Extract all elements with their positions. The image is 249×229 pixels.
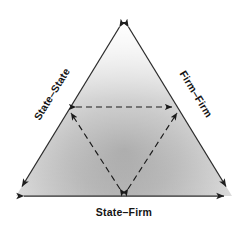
diagram-canvas: State–State Firm–Firm State–Firm — [0, 0, 249, 229]
right-edge-label: Firm–Firm — [178, 68, 216, 119]
bottom-edge-label: State–Firm — [96, 206, 152, 218]
triangle-diagram: State–State Firm–Firm State–Firm — [0, 0, 249, 229]
